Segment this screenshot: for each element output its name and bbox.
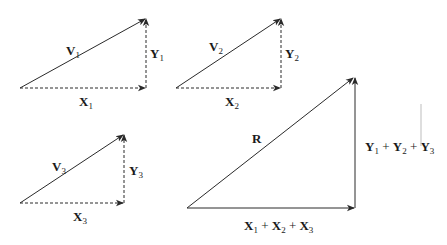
vector-addition-diagram: V1 Y1 X1 V2 Y2 X2 V3 Y3 X3 R Y1 + Y2 + Y… xyxy=(0,0,447,245)
label-x-sum: X1 + X2 + X3 xyxy=(244,218,314,235)
label-r: R xyxy=(252,131,262,146)
label-y1: Y1 xyxy=(150,46,164,63)
label-v2: V2 xyxy=(209,39,223,56)
label-x2: X2 xyxy=(225,94,239,111)
label-y2: Y2 xyxy=(285,46,299,63)
vector-triangle-1: V1 Y1 X1 xyxy=(20,19,164,111)
label-y-sum: Y1 + Y2 + Y3 xyxy=(365,139,435,156)
label-y3: Y3 xyxy=(129,163,143,180)
vector-triangle-2: V2 Y2 X2 xyxy=(176,19,299,111)
label-x1: X1 xyxy=(79,94,93,111)
label-v1: V1 xyxy=(66,43,80,60)
label-x3: X3 xyxy=(73,209,87,226)
vector-v2-arrow xyxy=(176,19,280,88)
resultant-r-arrow xyxy=(187,78,353,208)
vector-triangle-3: V3 Y3 X3 xyxy=(20,135,143,226)
vector-v3-arrow xyxy=(20,135,123,203)
label-v3: V3 xyxy=(52,159,66,176)
vector-v1-arrow xyxy=(20,19,145,88)
